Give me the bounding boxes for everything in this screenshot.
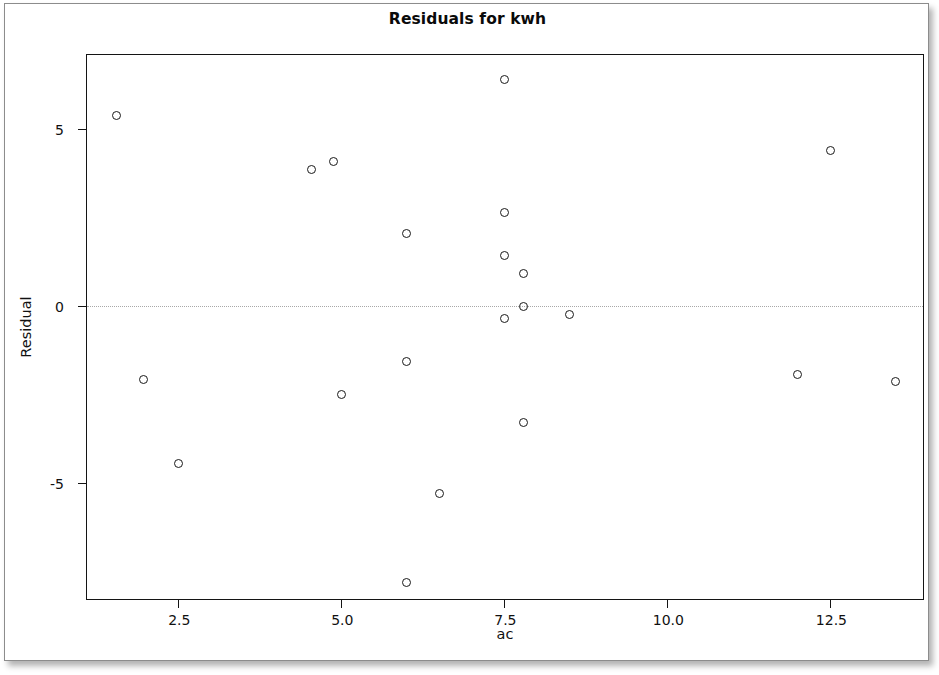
zero-reference-line — [87, 306, 923, 307]
data-point — [891, 377, 900, 386]
y-tick-label: 5 — [55, 122, 64, 138]
data-point — [500, 251, 509, 260]
x-tick: 10.0 — [667, 599, 668, 608]
data-point — [519, 302, 528, 311]
data-point — [435, 489, 444, 498]
data-point — [826, 146, 835, 155]
x-tick-label: 12.5 — [816, 612, 847, 628]
plot-area: 50-5 2.55.07.510.012.5 — [87, 55, 923, 599]
x-tick: 2.5 — [178, 599, 179, 608]
x-tick: 7.5 — [504, 599, 505, 608]
x-tick-label: 7.5 — [494, 612, 516, 628]
data-point — [112, 111, 121, 120]
data-point — [337, 390, 346, 399]
x-tick: 5.0 — [341, 599, 342, 608]
data-point — [402, 578, 411, 587]
screenshot-root: Residuals for kwh Residual ac 50-5 2.55.… — [0, 0, 939, 675]
x-tick-label: 5.0 — [331, 612, 353, 628]
y-axis-title: Residual — [15, 54, 37, 600]
plot-frame: 50-5 2.55.07.510.012.5 — [86, 54, 924, 600]
y-tick-label: -5 — [50, 476, 64, 492]
data-point — [519, 269, 528, 278]
y-tick-label: 0 — [55, 299, 64, 315]
data-point — [793, 370, 802, 379]
data-point — [307, 165, 316, 174]
y-tick: 5 — [78, 129, 87, 130]
chart-title: Residuals for kwh — [5, 10, 930, 28]
data-point — [402, 229, 411, 238]
x-tick-label: 2.5 — [168, 612, 190, 628]
y-tick: -5 — [78, 483, 87, 484]
data-point — [329, 157, 338, 166]
data-point — [565, 310, 574, 319]
data-point — [174, 459, 183, 468]
data-point — [500, 75, 509, 84]
data-point — [402, 357, 411, 366]
x-axis-title: ac — [86, 626, 924, 642]
x-tick: 12.5 — [830, 599, 831, 608]
data-point — [500, 208, 509, 217]
data-point — [519, 418, 528, 427]
y-tick: 0 — [78, 306, 87, 307]
data-point — [139, 375, 148, 384]
x-tick-label: 10.0 — [653, 612, 684, 628]
chart-window: Residuals for kwh Residual ac 50-5 2.55.… — [4, 3, 929, 661]
data-point — [500, 314, 509, 323]
